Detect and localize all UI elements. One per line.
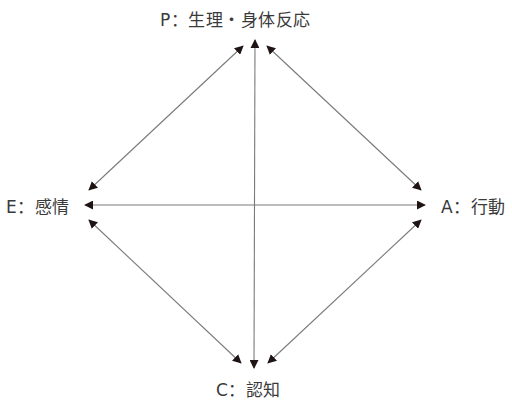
diagram-canvas: [0, 0, 512, 400]
edge-p-a-arrow: [267, 46, 421, 190]
edge-p-c-arrow: [254, 40, 255, 368]
edge-a-c-arrow: [268, 220, 421, 363]
edge-e-c-arrow: [89, 220, 241, 363]
edge-p-e-arrow: [89, 46, 243, 190]
